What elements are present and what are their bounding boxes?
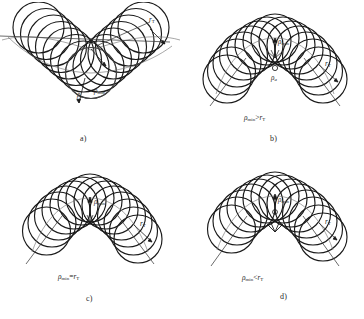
panel-a-drawing: ρa ρmin rT (0, 2, 186, 134)
panel-c: ρmin rT ρmin=rT c) (4, 166, 182, 294)
panel-d-letter: d) (280, 292, 287, 301)
panel-a-rt-label: rT (149, 16, 155, 24)
panel-d-caption: ρmin<rT (241, 273, 263, 282)
panel-b-drawing: ρmin ρa rT ρmin>rT (186, 2, 364, 134)
panel-c-caption: ρmin=rT (57, 272, 79, 281)
panel-d-drawing: ρmin rT ρmin<rT (186, 166, 364, 294)
figure-root: ρa ρmin rT a) (0, 0, 364, 319)
panel-b-caption: ρmin>rT (243, 113, 265, 122)
panel-b-letter: b) (270, 134, 277, 143)
panel-b-rho-a-label: ρa (270, 74, 277, 82)
panel-c-letter: c) (86, 294, 93, 303)
panel-a: ρa ρmin rT a) (0, 2, 186, 134)
panel-d: ρmin rT ρmin<rT d) (186, 166, 364, 294)
panel-c-drawing: ρmin rT ρmin=rT (4, 166, 182, 294)
panel-a-rho-min-label: ρmin (93, 87, 106, 95)
panel-b: ρmin ρa rT ρmin>rT b) (186, 2, 364, 134)
panel-b-rho-a-marker (272, 65, 277, 70)
panel-a-letter: a) (80, 134, 87, 143)
